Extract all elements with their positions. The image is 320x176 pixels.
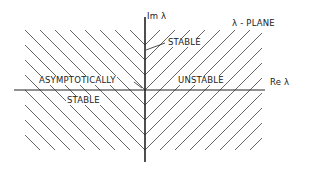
real-axis-label: Re λ: [270, 78, 289, 87]
plane-title: λ - PLANE: [232, 19, 275, 28]
asymptotically-label: ASYMPTOTICALLY: [38, 76, 117, 85]
stable-axis-label: STABLE: [167, 38, 202, 47]
left-stable-label: STABLE: [66, 96, 101, 105]
unstable-label: UNSTABLE: [177, 76, 225, 85]
imaginary-axis-label: Im λ: [147, 12, 166, 21]
